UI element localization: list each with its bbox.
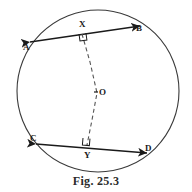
point-label-c: C bbox=[30, 134, 37, 143]
geometry-figure bbox=[0, 0, 192, 192]
circle-outline bbox=[17, 10, 179, 172]
dashed-line-x-o-y bbox=[82, 34, 97, 145]
right-angle-marker-y bbox=[82, 138, 90, 146]
point-label-y: Y bbox=[84, 151, 91, 160]
chord-cd bbox=[36, 144, 147, 153]
point-label-x: X bbox=[79, 20, 86, 29]
point-label-a: A bbox=[23, 43, 30, 52]
figure-caption: Fig. 25.3 bbox=[0, 174, 192, 189]
point-label-d: D bbox=[145, 144, 152, 153]
point-label-o: O bbox=[99, 88, 106, 97]
figure-container: A B C D X Y O Fig. 25.3 bbox=[0, 0, 192, 192]
point-label-b: B bbox=[136, 24, 142, 33]
